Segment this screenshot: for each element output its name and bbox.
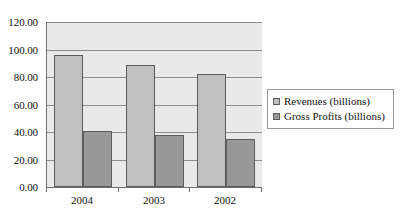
legend-item: Gross Profits (billions) [273,109,389,124]
y-axis-tick-label: 100.00 [8,45,38,56]
bar-2003-series-1 [155,135,184,187]
plot-area [46,22,262,188]
bar-2004-series-1 [83,131,112,187]
x-axis-tick-label: 2003 [118,194,190,206]
legend-swatch-icon [273,98,280,105]
bar-2002-series-1 [226,139,255,187]
chart-legend: Revenues (billions) Gross Profits (billi… [267,89,394,129]
bar-2004-series-0 [54,55,83,187]
y-axis-tick-label: 40.00 [14,127,38,138]
x-axis-tick-labels: 200420032002 [46,194,261,212]
x-axis-tick-label: 2002 [189,194,261,206]
legend-item: Revenues (billions) [273,94,389,109]
y-axis-tick-label: 20.00 [14,155,38,166]
y-axis-tick-label: 120.00 [8,17,38,28]
legend-item-label: Revenues (billions) [284,95,370,108]
legend-swatch-icon [273,113,280,120]
x-axis-tick [189,187,190,192]
x-axis-tick [261,187,262,192]
y-axis-tick-label: 80.00 [14,72,38,83]
x-axis-tick [46,187,47,192]
plot-inner [47,22,262,187]
legend-item-label: Gross Profits (billions) [284,110,385,123]
bar-chart: 0.0020.0040.0060.0080.00100.00120.00 200… [0,0,403,216]
y-axis-tick-label: 60.00 [14,100,38,111]
x-axis-tick-label: 2004 [46,194,118,206]
bar-2003-series-0 [126,65,155,187]
gridline [47,50,262,51]
x-axis-tick [118,187,119,192]
y-axis-tick-label: 0.00 [19,182,38,193]
gridline [47,22,262,23]
bar-2002-series-0 [197,74,226,187]
y-axis-tick-labels: 0.0020.0040.0060.0080.00100.00120.00 [0,22,42,187]
